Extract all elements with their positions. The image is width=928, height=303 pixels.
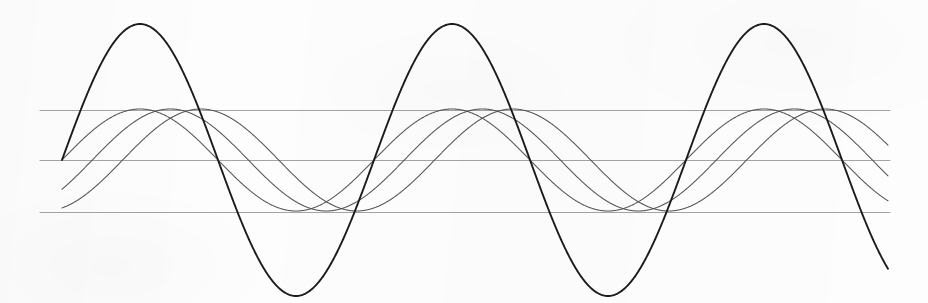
sine-wave-figure (0, 0, 928, 303)
wave-plot-canvas (0, 0, 928, 303)
